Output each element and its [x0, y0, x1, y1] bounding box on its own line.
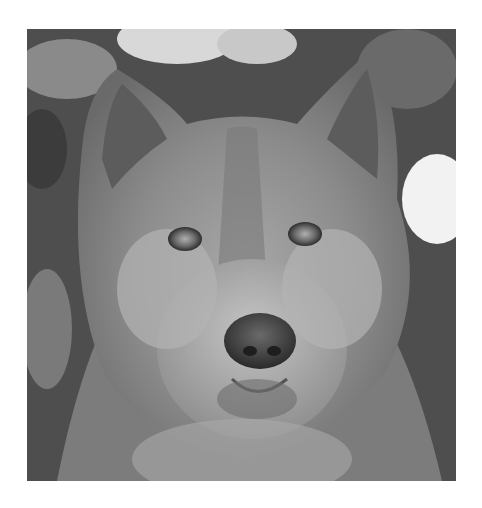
right-eye — [288, 222, 322, 246]
wolf-photo: Wolf-like dog face, black and white phot… — [27, 29, 456, 481]
wolf-illustration — [27, 29, 456, 481]
left-eye — [168, 227, 202, 251]
nose — [224, 313, 296, 369]
